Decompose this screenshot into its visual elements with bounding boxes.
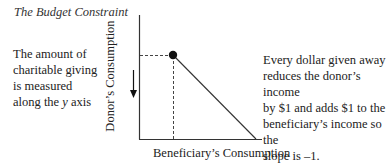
budget-constraint-diagram (0, 0, 388, 167)
y-axis-label: Donor’s Consumption (103, 14, 118, 138)
x-axis-label: Beneficiary’s Consumption (153, 146, 290, 161)
arrow-down-icon (130, 70, 137, 98)
endowment-point (169, 51, 177, 59)
budget-line (173, 55, 256, 139)
